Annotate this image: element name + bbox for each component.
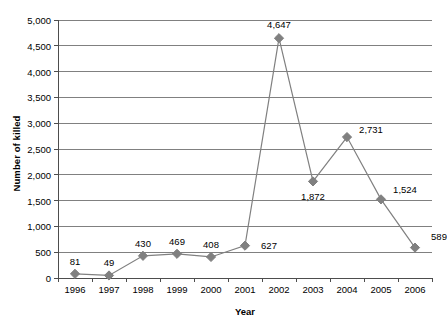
data-point-label: 2,731: [359, 124, 383, 135]
y-tick-label: 3,500: [11, 92, 51, 103]
data-point-label: 469: [169, 235, 185, 246]
data-point-label: 49: [104, 257, 115, 268]
data-point-label: 589: [431, 230, 447, 241]
data-point-label: 627: [261, 239, 277, 250]
x-tick-label: 2006: [395, 284, 435, 295]
series-line: [75, 38, 415, 275]
data-point-label: 1,872: [301, 191, 325, 202]
y-tick-label: 4,500: [11, 40, 51, 51]
y-tick-label: 500: [11, 247, 51, 258]
plot-area: [0, 0, 447, 326]
series-markers: [70, 34, 419, 280]
y-tick-label: 0: [11, 273, 51, 284]
gridlines: [58, 20, 432, 278]
y-tick-label: 2,000: [11, 169, 51, 180]
data-point-label: 1,524: [393, 184, 417, 195]
data-point-label: 4,647: [267, 19, 291, 30]
x-axis-title: Year: [58, 306, 432, 317]
data-point-label: 81: [70, 255, 81, 266]
y-tick-label: 4,000: [11, 66, 51, 77]
y-tick-label: 2,500: [11, 144, 51, 155]
line-chart: Number of killed Year 05001,0001,5002,00…: [0, 0, 447, 326]
y-tick-label: 3,000: [11, 118, 51, 129]
data-point-label: 430: [135, 237, 151, 248]
y-tick-label: 1,500: [11, 195, 51, 206]
data-point-label: 408: [203, 238, 219, 249]
y-tick-label: 1,000: [11, 221, 51, 232]
y-tick-label: 5,000: [11, 15, 51, 26]
